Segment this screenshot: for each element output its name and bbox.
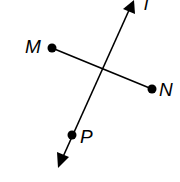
label-n: N: [159, 79, 173, 100]
point-p: [68, 131, 77, 140]
line-l-arrowhead-bottom-icon: [57, 152, 69, 168]
geometry-diagram: M N P l: [0, 0, 180, 182]
point-m: [48, 44, 57, 53]
point-n: [148, 85, 157, 94]
label-p: P: [80, 126, 93, 147]
label-line-l: l: [144, 0, 149, 14]
label-m: M: [25, 36, 41, 57]
